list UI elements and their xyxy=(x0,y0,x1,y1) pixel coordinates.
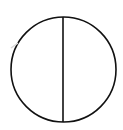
divided-circle-diagram xyxy=(0,0,123,130)
